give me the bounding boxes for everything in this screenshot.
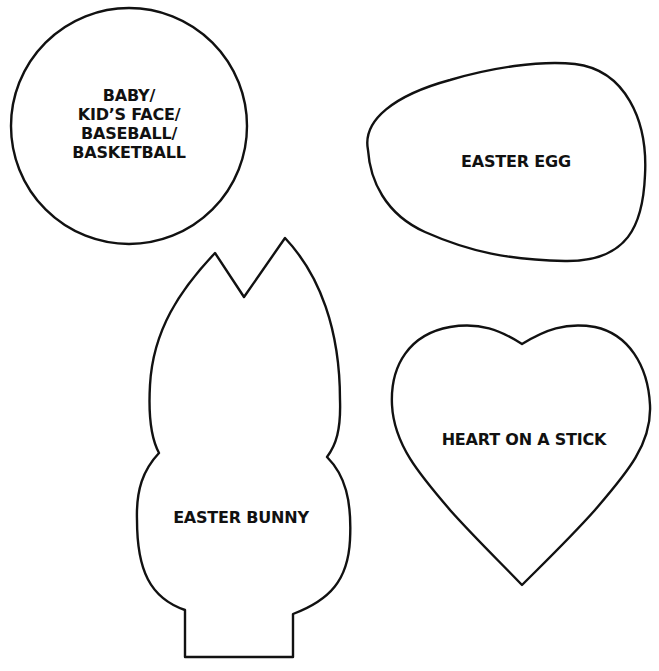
bunny-label: EASTER BUNNY <box>173 508 309 527</box>
bunny-label-line: EASTER BUNNY <box>173 508 309 527</box>
template-sheet: BABY/ KID’S FACE/ BASEBALL/ BASKETBALL E… <box>0 0 659 671</box>
egg-label-line: EASTER EGG <box>461 152 571 171</box>
heart-label-line: HEART ON A STICK <box>442 430 607 449</box>
egg-label: EASTER EGG <box>461 152 571 171</box>
heart-label: HEART ON A STICK <box>442 430 607 449</box>
circle-label-line: KID’S FACE/ <box>72 105 185 124</box>
circle-label-line: BASEBALL/ <box>72 124 185 143</box>
circle-label: BABY/ KID’S FACE/ BASEBALL/ BASKETBALL <box>72 86 185 162</box>
circle-label-line: BASKETBALL <box>72 143 185 162</box>
circle-label-line: BABY/ <box>72 86 185 105</box>
bunny-outline <box>137 238 350 657</box>
heart-outline <box>392 326 650 585</box>
